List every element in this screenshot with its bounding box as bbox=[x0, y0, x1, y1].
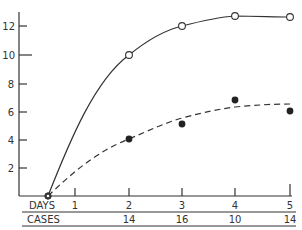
svg-text:12: 12 bbox=[2, 21, 15, 32]
days-label: DAYS bbox=[29, 200, 55, 211]
x-tick-label: 5 bbox=[287, 200, 293, 211]
cases-value: 10 bbox=[229, 214, 242, 225]
svg-text:10: 10 bbox=[2, 50, 15, 61]
x-tick-label: 3 bbox=[179, 200, 185, 211]
cases-value: 14 bbox=[123, 214, 136, 225]
svg-text:8: 8 bbox=[8, 79, 14, 90]
solid-curve bbox=[48, 16, 290, 196]
y-ticks bbox=[19, 26, 32, 168]
svg-text:6: 6 bbox=[8, 107, 14, 118]
cases-value: 16 bbox=[176, 214, 189, 225]
x-tick-label: 2 bbox=[126, 200, 132, 211]
x-ticks bbox=[75, 184, 290, 196]
y-tick-labels: 2 4 6 8 10 12 bbox=[2, 21, 15, 174]
x-tick-label: 4 bbox=[232, 200, 238, 211]
cases-label: CASES bbox=[27, 214, 60, 225]
dashed-curve bbox=[48, 104, 290, 196]
x-tick-label: 1 bbox=[72, 200, 78, 211]
cases-value: 14 bbox=[284, 214, 297, 225]
filled-circle-points bbox=[126, 97, 294, 143]
svg-text:2: 2 bbox=[8, 163, 14, 174]
svg-text:4: 4 bbox=[8, 135, 14, 146]
chart: 2 4 6 8 10 12 DAYS 1 2 3 4 5 CASES 14 16… bbox=[0, 0, 302, 230]
